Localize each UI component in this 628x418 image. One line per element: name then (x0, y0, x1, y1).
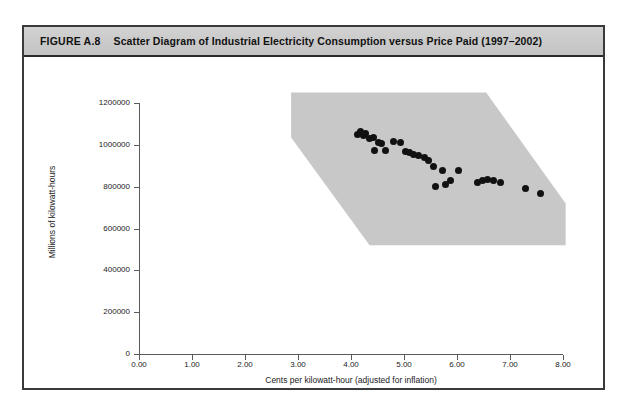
y-tick-label: 0 (68, 350, 130, 358)
y-tick (134, 229, 139, 230)
data-point (390, 138, 397, 145)
data-point (455, 167, 462, 174)
x-tick-label: 1.00 (172, 360, 212, 369)
plot-canvas: 020000040000060000080000010000001200000 … (24, 57, 603, 388)
x-tick-label: 2.00 (225, 360, 265, 369)
figure-title: Scatter Diagram of Industrial Electricit… (114, 35, 542, 47)
data-point (537, 190, 544, 197)
y-axis-title: Millions of kilowatt-hours (47, 122, 57, 302)
data-point (371, 147, 378, 154)
y-tick-label: 200000 (68, 308, 130, 316)
data-point (430, 163, 437, 170)
data-point (382, 147, 389, 154)
data-point (490, 177, 497, 184)
x-tick-label: 6.00 (437, 360, 477, 369)
y-tick-label: 1200000 (68, 99, 130, 107)
y-tick (134, 312, 139, 313)
y-tick (134, 187, 139, 188)
data-point (439, 167, 446, 174)
data-point (432, 183, 439, 190)
y-tick-label: 800000 (68, 183, 130, 191)
data-point (447, 177, 454, 184)
y-tick-label: 600000 (68, 225, 130, 233)
x-tick-label: 3.00 (278, 360, 318, 369)
data-point (378, 140, 385, 147)
data-point (497, 179, 504, 186)
x-tick-label: 8.00 (543, 360, 583, 369)
figure-title-bar: FIGURE A.8 Scatter Diagram of Industrial… (24, 27, 603, 57)
y-tick-label: 400000 (68, 266, 130, 274)
x-tick-label: 4.00 (331, 360, 371, 369)
figure-number: FIGURE A.8 (40, 35, 101, 47)
y-axis-line (139, 103, 140, 355)
y-tick (134, 103, 139, 104)
data-point (522, 185, 529, 192)
y-tick (134, 145, 139, 146)
figure-frame: FIGURE A.8 Scatter Diagram of Industrial… (22, 25, 605, 390)
x-tick-label: 0.00 (119, 360, 159, 369)
data-point (397, 139, 404, 146)
x-axis-title: Cents per kilowatt-hour (adjusted for in… (139, 375, 563, 385)
y-tick-label: 1000000 (68, 141, 130, 149)
x-tick-label: 7.00 (490, 360, 530, 369)
x-tick-label: 5.00 (384, 360, 424, 369)
y-tick (134, 270, 139, 271)
